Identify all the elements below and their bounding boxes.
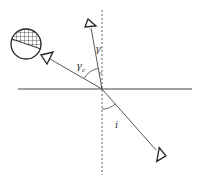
incident-ray	[102, 89, 156, 150]
label-incidence: i	[115, 120, 118, 130]
angle-arc-incidence	[102, 104, 116, 109]
label-gamma: γ	[95, 44, 101, 54]
arrowhead-down-icon	[157, 148, 167, 163]
angle-arc-gamma-c	[84, 68, 99, 78]
diagram-svg	[0, 0, 202, 179]
arrowhead-up-icon	[85, 19, 96, 27]
label-gamma-c-sub: c	[82, 66, 85, 73]
observer-sphere-icon	[11, 29, 41, 59]
label-gamma-c: γc	[76, 61, 85, 73]
arrowhead-left-icon	[41, 52, 53, 64]
diagram-canvas: γ γc i	[0, 0, 202, 179]
reflected-ray	[91, 28, 102, 89]
